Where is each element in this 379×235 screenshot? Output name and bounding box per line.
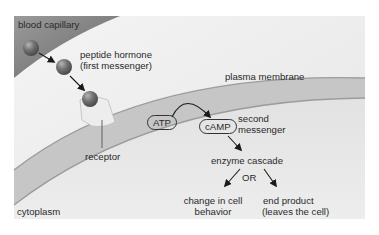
plasma-membrane-label: plasma membrane (225, 71, 304, 82)
outcome-behavior-line2: behavior (178, 206, 248, 217)
or-label: OR (242, 172, 256, 183)
outcome-product-line2: (leaves the cell) (262, 206, 329, 217)
outcome-behavior-line1: change in cell (178, 195, 248, 206)
atp-node: ATP (147, 115, 177, 130)
outcome-product-line1: end product (263, 195, 314, 206)
second-messenger-label-line2: messenger (238, 124, 285, 135)
blood-capillary-label: blood capillary (18, 19, 79, 30)
hormone-molecule-1 (23, 40, 39, 56)
camp-node: cAMP (199, 119, 237, 134)
enzyme-cascade-label: enzyme cascade (211, 155, 283, 166)
hormone-label-line1: peptide hormone (80, 49, 152, 60)
signaling-diagram: blood capillary peptide hormone (first m… (0, 0, 379, 235)
hormone-molecule-3 (82, 91, 98, 107)
hormone-label-line2: (first messenger) (80, 60, 152, 71)
receptor-label: receptor (85, 151, 120, 162)
cytoplasm-label: cytoplasm (17, 206, 60, 217)
second-messenger-label-line1: second (238, 113, 269, 124)
hormone-molecule-2 (56, 59, 72, 75)
